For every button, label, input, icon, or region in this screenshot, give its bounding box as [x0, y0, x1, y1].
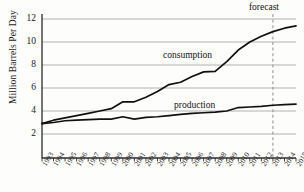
- series-label-production: production: [174, 100, 215, 110]
- series-line-production: [42, 104, 296, 124]
- series-line-consumption: [42, 26, 296, 124]
- series-lines: [42, 26, 296, 124]
- gridlines: [42, 19, 296, 134]
- axis-lines: [42, 14, 296, 158]
- forecast-annotation-label: forecast: [249, 2, 279, 12]
- series-label-consumption: consumption: [163, 50, 212, 60]
- oil-consumption-production-chart: Million Barrels Per Day 24681012 1993199…: [0, 0, 304, 192]
- plot-area: [0, 0, 304, 192]
